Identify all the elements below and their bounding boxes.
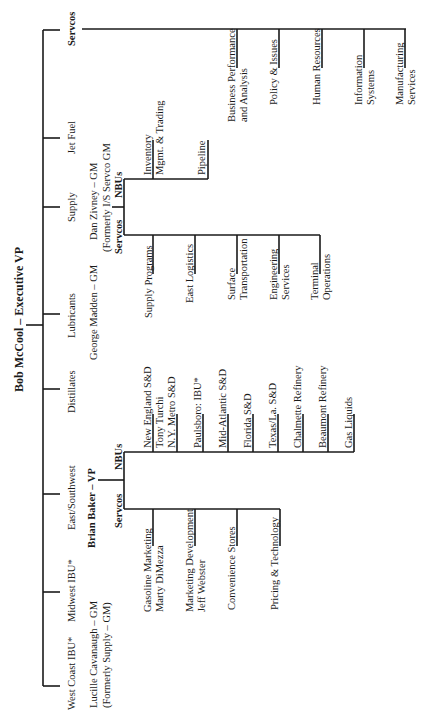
- esw-nbu-ny-metro: N.Y. Metro S&D: [166, 376, 177, 448]
- supply-nbu-inventory-2: Mgmt. & Trading: [154, 101, 165, 175]
- esw-servco-gasoline-2: Marty DiMezza: [154, 545, 165, 612]
- corp-servco-manufacturing-2: Services: [406, 69, 417, 105]
- supply-servco-supply-programs: Supply Programs: [143, 245, 154, 318]
- corp-servco-info-systems-2: Systems: [365, 70, 376, 105]
- manager-supply: Dan Zivney – GM: [88, 163, 99, 240]
- esw-nbu-mid-atlantic: Mid-Atlantic S&D: [217, 369, 228, 448]
- corp-servco-business-performance-2: and Analysis: [238, 68, 249, 122]
- corp-servco-policy: Policy & Issues: [268, 39, 279, 105]
- corp-servco-hr: Human Resources: [311, 28, 322, 105]
- esw-nbu-chalmette: Chalmette Refinery: [292, 365, 303, 448]
- supply-servco-terminal-2: Operations: [321, 254, 332, 300]
- org-chart-title: Bob McCool – Executive VP: [14, 247, 25, 392]
- supply-servcos-label: Servcos: [113, 220, 124, 254]
- supply-nbu-pipeline: Pipeline: [196, 141, 207, 175]
- division-west-coast: West Coast IBU*: [66, 637, 77, 710]
- esw-nbu-beaumont: Beaumont Refinery: [317, 365, 328, 448]
- corp-servco-manufacturing: Manufacturing: [394, 43, 405, 105]
- division-jet-fuel: Jet Fuel: [66, 121, 77, 154]
- supply-servco-engineering-2: Services: [280, 264, 291, 300]
- esw-nbu-texas: Texas/La. S&D: [267, 383, 278, 448]
- supply-nbus-label: NBUs: [113, 172, 124, 198]
- esw-servco-gasoline: Gasoline Marketing: [142, 528, 153, 612]
- manager-supply-note: (Formerly I/S Servco GM: [101, 143, 112, 252]
- corp-servco-info-systems: Information: [353, 55, 364, 105]
- manager-west-coast: Lucille Cavanaugh – GM: [88, 601, 99, 708]
- esw-nbu-florida: Florida S&D: [242, 393, 253, 448]
- supply-servco-surface: Surface: [226, 268, 237, 300]
- esw-nbus-label: NBUs: [113, 444, 124, 470]
- manager-lubricants: George Madden – GM: [88, 265, 99, 360]
- esw-nbu-paulsboro: Paulsboro: IBU*: [192, 377, 203, 448]
- division-supply: Supply: [66, 192, 77, 222]
- esw-nbu-gas-liquids: Gas Liquids: [343, 397, 354, 448]
- division-servcos: Servcos: [66, 12, 77, 46]
- esw-servco-convenience: Convenience Stores: [226, 526, 237, 610]
- supply-servco-east-logistics: East Logistics: [184, 244, 195, 303]
- division-east-southwest: East/Southwest: [66, 465, 77, 530]
- esw-servco-marketing-dev: Marketing Development: [184, 509, 195, 612]
- manager-east-southwest: Brian Baker – VP: [86, 468, 97, 548]
- esw-servco-pricing: Pricing & Technology: [269, 517, 280, 610]
- division-midwest: Midwest IBU*: [66, 559, 77, 622]
- esw-servco-marketing-dev-2: Jeff Webster: [196, 560, 207, 612]
- supply-servco-terminal: Terminal: [309, 262, 320, 300]
- esw-servcos-label: Servcos: [113, 494, 124, 528]
- division-lubricants: Lubricants: [66, 293, 77, 338]
- esw-nbu-new-england: New England S&D: [142, 366, 153, 448]
- supply-servco-engineering: Engineering: [268, 249, 279, 300]
- supply-nbu-inventory: Inventory: [142, 134, 153, 175]
- org-chart-lines: [0, 0, 424, 712]
- division-distillates: Distillates: [66, 370, 77, 413]
- esw-nbu-new-england-2: Tony Turchi: [154, 397, 165, 449]
- corp-servco-business-performance: Business Performance: [226, 28, 237, 122]
- supply-servco-surface-2: Transportation: [238, 239, 249, 300]
- manager-west-coast-note: (Formerly Supply – GM): [101, 602, 112, 708]
